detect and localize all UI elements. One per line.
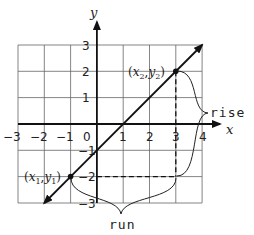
y-axis-label: y [89,5,98,20]
svg-text:−1: −1 [56,130,74,144]
x-axis-label: x [226,122,234,137]
rise-label: rise [210,105,245,120]
svg-text:1: 1 [119,130,127,144]
svg-text:0: 0 [83,130,91,144]
run-label: run [109,217,135,232]
svg-text:4: 4 [199,130,207,144]
svg-text:−3: −3 [78,197,96,211]
point-2-label: (x2,y2) [128,65,165,81]
svg-text:1: 1 [82,91,90,105]
point-1-label: (x1,y1) [24,170,61,186]
svg-text:−2: −2 [30,130,48,144]
svg-text:2: 2 [146,130,154,144]
slope-diagram: x y −3 −2 −1 0 1 2 3 4 3 2 1 −1 −2 −3 (x… [0,0,254,235]
svg-text:−1: −1 [78,144,96,158]
svg-text:−3: −3 [3,130,21,144]
svg-text:3: 3 [82,39,90,53]
svg-text:−2: −2 [78,170,96,184]
svg-text:2: 2 [82,65,90,79]
y-tick-labels: 3 2 1 −1 −2 −3 [78,39,96,211]
